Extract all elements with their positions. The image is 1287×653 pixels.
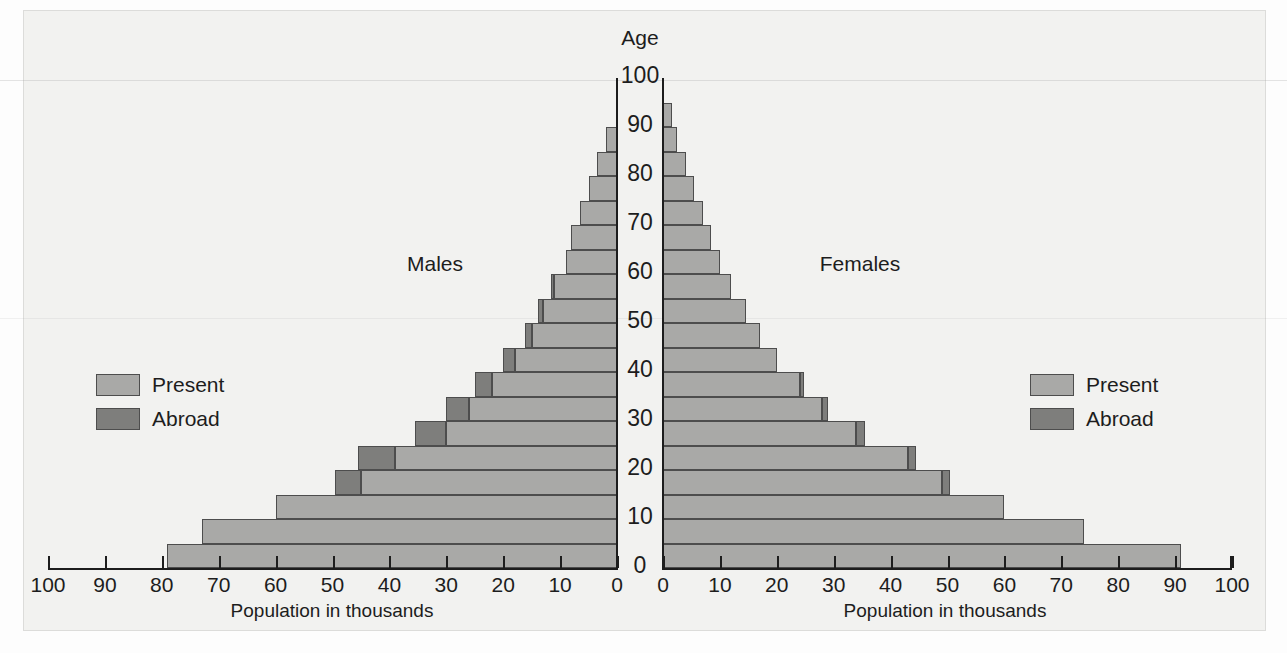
age-tick-60: 60 bbox=[605, 258, 675, 285]
bar-females-present-40-45 bbox=[663, 348, 777, 373]
left-x-axis bbox=[48, 568, 618, 570]
bar-females-present-25-30 bbox=[663, 421, 856, 446]
right-xtick-20: 20 bbox=[757, 573, 797, 597]
right-xtick-30: 30 bbox=[814, 573, 854, 597]
females-label: Females bbox=[780, 252, 940, 276]
bar-females-present-45-50 bbox=[663, 323, 760, 348]
right-tickmark-0 bbox=[663, 556, 665, 568]
left-tickmark-50 bbox=[333, 556, 335, 568]
left-xtick-70: 70 bbox=[199, 573, 239, 597]
right-tickmark-40 bbox=[891, 556, 893, 568]
bar-females-abroad-20-25 bbox=[908, 446, 917, 471]
legend-item-abroad[interactable]: Abroad bbox=[96, 406, 224, 432]
left-tickmark-70 bbox=[219, 556, 221, 568]
right-tickmark-30 bbox=[834, 556, 836, 568]
legend-label-abroad: Abroad bbox=[1086, 407, 1154, 431]
right-xtick-0: 0 bbox=[643, 573, 683, 597]
legend-left: Present Abroad bbox=[96, 372, 224, 440]
bar-males-abroad-20-25 bbox=[358, 446, 395, 471]
left-tickmark-90 bbox=[105, 556, 107, 568]
left-tickmark-0 bbox=[617, 556, 619, 568]
left-xtick-60: 60 bbox=[256, 573, 296, 597]
bar-males-present-30-35 bbox=[469, 397, 617, 422]
right-xtick-90: 90 bbox=[1155, 573, 1195, 597]
bar-males-present-20-25 bbox=[395, 446, 617, 471]
bar-males-present-35-40 bbox=[492, 372, 617, 397]
age-tick-30: 30 bbox=[605, 405, 675, 432]
bar-males-present-0-5 bbox=[167, 544, 617, 569]
right-xtick-60: 60 bbox=[984, 573, 1024, 597]
bar-females-present-30-35 bbox=[663, 397, 822, 422]
right-xtick-40: 40 bbox=[871, 573, 911, 597]
bar-females-present-15-20 bbox=[663, 470, 942, 495]
age-axis-title: Age bbox=[590, 26, 690, 50]
right-xtick-80: 80 bbox=[1098, 573, 1138, 597]
legend-item-present[interactable]: Present bbox=[96, 372, 224, 398]
right-xtick-100: 100 bbox=[1212, 573, 1252, 597]
legend-label-present: Present bbox=[152, 373, 224, 397]
left-xtick-50: 50 bbox=[313, 573, 353, 597]
figure-root: Age Males Females Population in thousand… bbox=[0, 0, 1287, 653]
bar-males-abroad-45-50 bbox=[525, 323, 532, 348]
right-x-axis bbox=[662, 568, 1232, 570]
bar-females-present-20-25 bbox=[663, 446, 908, 471]
bar-males-abroad-35-40 bbox=[475, 372, 492, 397]
left-xtick-0: 0 bbox=[597, 573, 637, 597]
legend-swatch-present-icon bbox=[1030, 374, 1074, 396]
bar-males-present-10-15 bbox=[276, 495, 617, 520]
legend-swatch-abroad-icon bbox=[96, 408, 140, 430]
age-tick-10: 10 bbox=[605, 503, 675, 530]
right-tickmark-100 bbox=[1232, 556, 1234, 568]
bar-females-present-35-40 bbox=[663, 372, 800, 397]
bar-females-present-0-5 bbox=[663, 544, 1181, 569]
legend-item-present[interactable]: Present bbox=[1030, 372, 1158, 398]
bar-females-abroad-15-20 bbox=[942, 470, 951, 495]
bar-males-abroad-15-20 bbox=[335, 470, 361, 495]
age-tick-40: 40 bbox=[605, 356, 675, 383]
males-label: Males bbox=[355, 252, 515, 276]
left-xtick-100: 100 bbox=[28, 573, 68, 597]
left-tickmark-100 bbox=[48, 556, 50, 568]
right-xtick-70: 70 bbox=[1041, 573, 1081, 597]
bar-males-present-25-30 bbox=[446, 421, 617, 446]
left-xtick-10: 10 bbox=[540, 573, 580, 597]
left-xtick-40: 40 bbox=[369, 573, 409, 597]
bar-males-present-40-45 bbox=[515, 348, 617, 373]
age-tick-20: 20 bbox=[605, 454, 675, 481]
legend-item-abroad[interactable]: Abroad bbox=[1030, 406, 1158, 432]
right-xaxis-title: Population in thousands bbox=[785, 600, 1105, 622]
right-tickmark-60 bbox=[1004, 556, 1006, 568]
age-tick-90: 90 bbox=[605, 111, 675, 138]
left-tickmark-10 bbox=[560, 556, 562, 568]
legend-swatch-present-icon bbox=[96, 374, 140, 396]
bar-females-present-50-55 bbox=[663, 299, 746, 324]
left-tickmark-60 bbox=[276, 556, 278, 568]
legend-swatch-abroad-icon bbox=[1030, 408, 1074, 430]
right-tickmark-80 bbox=[1118, 556, 1120, 568]
legend-label-abroad: Abroad bbox=[152, 407, 220, 431]
bar-females-abroad-25-30 bbox=[856, 421, 865, 446]
bar-females-present-5-10 bbox=[663, 519, 1084, 544]
legend-label-present: Present bbox=[1086, 373, 1158, 397]
right-tickmark-50 bbox=[948, 556, 950, 568]
population-pyramid-plot: Age Males Females Population in thousand… bbox=[0, 0, 1287, 653]
legend-right: Present Abroad bbox=[1030, 372, 1158, 440]
age-tick-100: 100 bbox=[605, 62, 675, 89]
bar-females-abroad-30-35 bbox=[822, 397, 828, 422]
left-tickmark-80 bbox=[162, 556, 164, 568]
left-xtick-90: 90 bbox=[85, 573, 125, 597]
bar-males-abroad-55-60 bbox=[551, 274, 554, 299]
left-tickmark-30 bbox=[446, 556, 448, 568]
bar-males-present-5-10 bbox=[202, 519, 617, 544]
right-tickmark-10 bbox=[720, 556, 722, 568]
left-xtick-30: 30 bbox=[426, 573, 466, 597]
age-tick-50: 50 bbox=[605, 307, 675, 334]
right-tickmark-70 bbox=[1061, 556, 1063, 568]
right-xtick-50: 50 bbox=[928, 573, 968, 597]
age-tick-70: 70 bbox=[605, 209, 675, 236]
left-xtick-80: 80 bbox=[142, 573, 182, 597]
left-tickmark-40 bbox=[389, 556, 391, 568]
bar-males-abroad-30-35 bbox=[446, 397, 469, 422]
bar-males-abroad-25-30 bbox=[415, 421, 446, 446]
bar-males-abroad-50-55 bbox=[538, 299, 543, 324]
